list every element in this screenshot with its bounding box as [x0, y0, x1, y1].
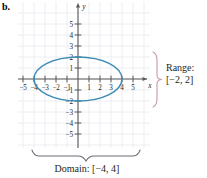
range-annotation-line2: [−2, 2] — [166, 74, 207, 86]
y-tick-label: −3 — [65, 109, 73, 117]
plot-svg: −5 −4 −3 −2 −1 1 2 3 4 5 5 4 3 2 1 −1 −2… — [0, 0, 160, 150]
x-axis — [18, 77, 147, 81]
x-tick-label: −3 — [41, 84, 49, 92]
range-annotation-line1: Range: — [166, 62, 207, 74]
figure-container: b. — [0, 0, 207, 178]
range-brace-icon — [150, 50, 166, 110]
domain-brace-icon — [30, 149, 142, 163]
x-tick-label: 5 — [131, 84, 135, 92]
y-tick-label: 1 — [69, 65, 73, 73]
x-tick-label: −5 — [19, 84, 27, 92]
y-tick-label: 3 — [69, 43, 73, 51]
x-tick-label: 2 — [98, 84, 102, 92]
y-tick-label: 4 — [69, 32, 73, 40]
y-tick-label: −1 — [65, 87, 73, 95]
x-tick-label: 3 — [109, 84, 113, 92]
grid-lines — [18, 2, 150, 148]
y-tick-label: 5 — [69, 21, 73, 29]
coordinate-plot: −5 −4 −3 −2 −1 1 2 3 4 5 5 4 3 2 1 −1 −2… — [0, 0, 160, 150]
x-tick-label: 1 — [87, 84, 91, 92]
domain-annotation: Domain: [−4, 4] — [27, 163, 147, 175]
range-annotation: Range: [−2, 2] — [166, 62, 207, 85]
y-axis — [76, 3, 80, 148]
y-axis-label: y — [81, 2, 86, 11]
x-tick-label: −2 — [52, 84, 60, 92]
y-tick-label: −4 — [65, 120, 73, 128]
y-tick-label: −5 — [65, 131, 73, 139]
